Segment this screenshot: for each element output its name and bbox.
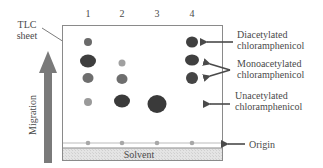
lane-label-4: 4 bbox=[190, 8, 195, 19]
origin-spot-4 bbox=[190, 141, 195, 146]
annotation-unacetylated-line-2: chloramphenicol bbox=[235, 101, 302, 112]
spot-lane1-monoacetylated-b bbox=[83, 73, 94, 83]
spot-lane1-diacetylated bbox=[84, 38, 92, 46]
annotation-monoacetylated-line-1: Monoacetylated bbox=[237, 58, 301, 69]
origin-spot-3 bbox=[155, 141, 160, 146]
solvent-label: Solvent bbox=[124, 149, 155, 160]
tlc-plate: Solvent bbox=[63, 26, 223, 161]
annotation-unacetylated-line-1: Unacetylated bbox=[235, 90, 288, 101]
migration-arrow-head-icon bbox=[39, 51, 57, 73]
annotation-diacetylated-line-2: chloramphenicol bbox=[237, 40, 304, 51]
spot-lane1-monoacetylated-a bbox=[80, 55, 96, 68]
plate-frame bbox=[63, 26, 223, 161]
spot-lane4-monoacetylated-a bbox=[185, 55, 199, 66]
tlc-sheet-leader-line bbox=[42, 28, 64, 42]
tlc-sheet-label-line-1: TLC bbox=[18, 19, 37, 30]
origin-spot-2 bbox=[120, 141, 125, 146]
tlc-sheet-label-line-2: sheet bbox=[17, 30, 38, 41]
spot-lane3-unacetylated bbox=[148, 95, 167, 113]
tlc-diagram: 1 2 3 4 TLC sheet Migration Solvent bbox=[0, 0, 323, 168]
spot-lane4-monoacetylated-b bbox=[186, 72, 198, 84]
migration-label: Migration bbox=[27, 95, 38, 135]
annotation-diacetylated-line-1: Diacetylated bbox=[237, 29, 288, 40]
spot-lane1-unacetylated bbox=[84, 98, 92, 106]
spot-lane4-diacetylated bbox=[186, 37, 198, 48]
tlc-sheet-label: TLC sheet bbox=[17, 19, 64, 42]
annotations: Diacetylated chloramphenicol Monoacetyla… bbox=[235, 29, 304, 150]
lane-label-1: 1 bbox=[86, 8, 91, 19]
spot-lane2-monoacetylated-a bbox=[119, 60, 126, 67]
lane-label-2: 2 bbox=[120, 8, 125, 19]
origin-spot-1 bbox=[86, 141, 91, 146]
annotation-monoacetylated-line-2: chloramphenicol bbox=[237, 69, 304, 80]
migration-arrow: Migration bbox=[27, 51, 57, 163]
migration-arrow-shaft bbox=[44, 70, 52, 163]
spot-lane2-monoacetylated-b bbox=[117, 74, 128, 84]
lane-label-3: 3 bbox=[155, 8, 160, 19]
lane-labels: 1 2 3 4 bbox=[86, 8, 195, 19]
spot-lane2-unacetylated bbox=[114, 95, 130, 108]
annotation-origin: Origin bbox=[249, 139, 275, 150]
